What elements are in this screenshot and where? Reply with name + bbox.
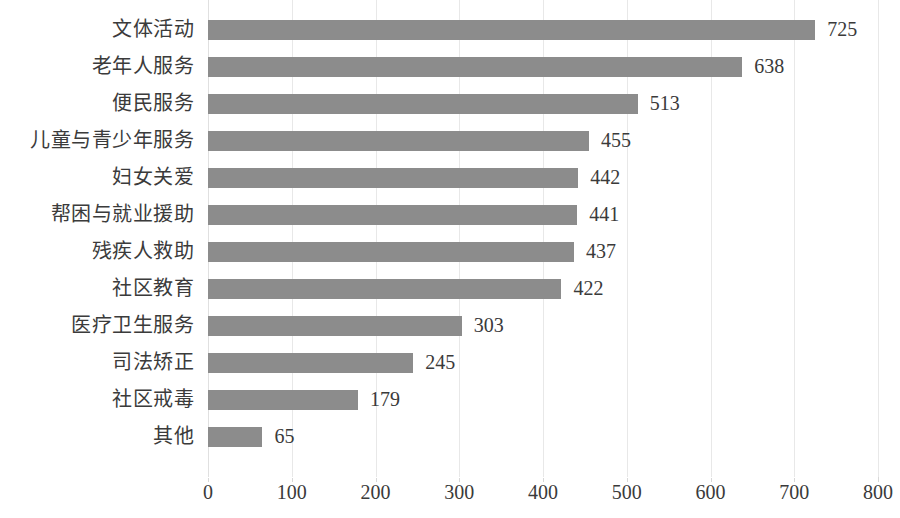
bar-row[interactable]: 医疗卫生服务303 (0, 307, 900, 344)
bar-row[interactable]: 司法矫正245 (0, 344, 900, 381)
axis-baseline (208, 477, 878, 478)
bar-row[interactable]: 社区教育422 (0, 270, 900, 307)
bar-row[interactable]: 帮困与就业援助441 (0, 196, 900, 233)
category-label: 司法矫正 (0, 344, 194, 381)
bar-value-label: 245 (413, 344, 455, 381)
x-tick-label: 400 (528, 481, 558, 504)
bar-value-label: 422 (561, 270, 603, 307)
bar-value-label: 638 (742, 48, 784, 85)
bar[interactable] (208, 57, 742, 77)
category-label: 社区教育 (0, 270, 194, 307)
bar-value-label: 441 (577, 196, 619, 233)
category-label: 儿童与青少年服务 (0, 122, 194, 159)
bar-row[interactable]: 残疾人救助437 (0, 233, 900, 270)
bar[interactable] (208, 316, 462, 336)
bar[interactable] (208, 427, 262, 447)
bar-row[interactable]: 妇女关爱442 (0, 159, 900, 196)
category-label: 残疾人救助 (0, 233, 194, 270)
bar[interactable] (208, 205, 577, 225)
bar-value-label: 513 (638, 85, 680, 122)
bar[interactable] (208, 279, 561, 299)
x-tick-label: 0 (203, 481, 213, 504)
x-tick-label: 600 (696, 481, 726, 504)
bar-row[interactable]: 儿童与青少年服务455 (0, 122, 900, 159)
bar-value-label: 303 (462, 307, 504, 344)
category-label: 帮困与就业援助 (0, 196, 194, 233)
bar-value-label: 65 (262, 418, 294, 455)
category-label: 妇女关爱 (0, 159, 194, 196)
x-tick-label: 700 (779, 481, 809, 504)
bar-value-label: 179 (358, 381, 400, 418)
bar[interactable] (208, 390, 358, 410)
bar-row[interactable]: 其他65 (0, 418, 900, 455)
bar-row[interactable]: 社区戒毒179 (0, 381, 900, 418)
bar-value-label: 455 (589, 122, 631, 159)
bar-value-label: 442 (578, 159, 620, 196)
bar[interactable] (208, 242, 574, 262)
bar-value-label: 725 (815, 11, 857, 48)
bar[interactable] (208, 131, 589, 151)
bar[interactable] (208, 94, 638, 114)
bar-chart: 文体活动725老年人服务638便民服务513儿童与青少年服务455妇女关爱442… (0, 0, 900, 518)
x-tick-label: 100 (277, 481, 307, 504)
bar-row[interactable]: 文体活动725 (0, 11, 900, 48)
category-label: 便民服务 (0, 85, 194, 122)
category-label: 其他 (0, 418, 194, 455)
category-label: 社区戒毒 (0, 381, 194, 418)
x-tick-label: 500 (612, 481, 642, 504)
x-tick-label: 800 (863, 481, 893, 504)
category-label: 医疗卫生服务 (0, 307, 194, 344)
bar-row[interactable]: 便民服务513 (0, 85, 900, 122)
category-label: 文体活动 (0, 11, 194, 48)
bar[interactable] (208, 20, 815, 40)
category-label: 老年人服务 (0, 48, 194, 85)
bar[interactable] (208, 168, 578, 188)
bar[interactable] (208, 353, 413, 373)
x-tick-label: 200 (361, 481, 391, 504)
x-tick-label: 300 (444, 481, 474, 504)
bar-row[interactable]: 老年人服务638 (0, 48, 900, 85)
bar-value-label: 437 (574, 233, 616, 270)
